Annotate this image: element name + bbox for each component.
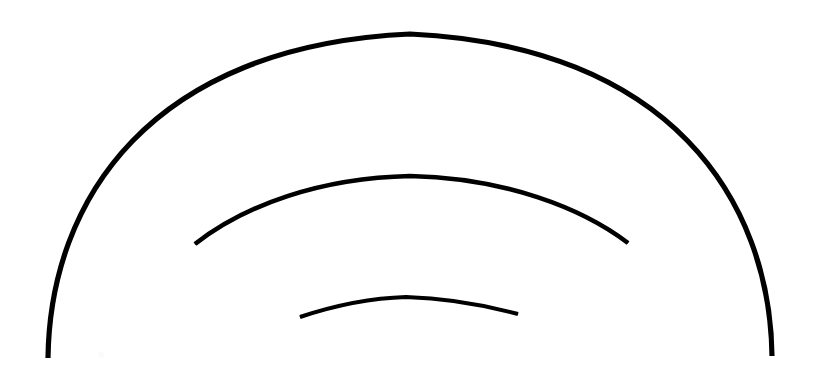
canvas-background (0, 0, 819, 388)
figure-root (0, 0, 819, 388)
arc-canvas (0, 0, 819, 388)
